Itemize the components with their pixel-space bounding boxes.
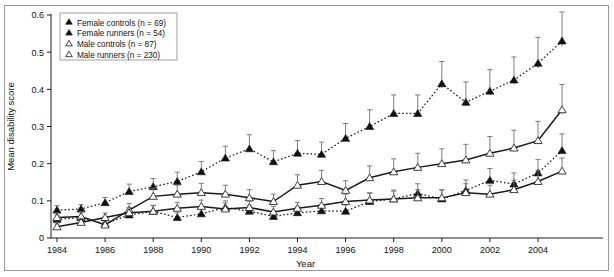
- x-tick-label: 1992: [239, 245, 259, 255]
- series-line: [57, 171, 562, 227]
- series-line: [57, 110, 562, 225]
- data-point-marker: [558, 106, 566, 113]
- data-point-marker: [173, 178, 181, 185]
- x-tick-label: 1990: [191, 245, 211, 255]
- data-point-marker: [486, 176, 494, 183]
- data-point-marker: [342, 134, 350, 141]
- y-tick-label: 0.1: [31, 196, 44, 206]
- y-tick-label: 0.4: [31, 85, 44, 95]
- data-point-marker: [558, 167, 566, 174]
- data-point-marker: [510, 76, 518, 83]
- data-point-marker: [221, 154, 229, 161]
- x-tick-label: 2004: [528, 245, 548, 255]
- data-point-marker: [53, 206, 61, 213]
- x-tick-label: 1996: [336, 245, 356, 255]
- data-point-marker: [534, 59, 542, 66]
- data-point-marker: [438, 80, 446, 87]
- data-point-marker: [245, 145, 253, 152]
- series-line: [57, 41, 562, 210]
- data-point-marker: [317, 178, 325, 185]
- y-tick-label: 0.2: [31, 159, 44, 169]
- data-point-marker: [101, 199, 109, 206]
- data-point-marker: [342, 207, 350, 214]
- data-point-marker: [197, 168, 205, 175]
- x-tick-label: 1984: [47, 245, 67, 255]
- y-axis-title: Mean disability score: [5, 82, 16, 171]
- legend-label: Male controls (n = 87): [77, 40, 157, 49]
- x-tick-label: 1986: [95, 245, 115, 255]
- data-point-marker: [269, 158, 277, 165]
- x-tick-label: 1994: [287, 245, 307, 255]
- chart-figure: 00.10.20.30.40.50.6198419861988199019921…: [0, 0, 614, 277]
- data-point-marker: [486, 87, 494, 94]
- y-tick-label: 0.5: [31, 48, 44, 58]
- data-point-marker: [558, 37, 566, 44]
- legend-label: Male runners (n = 230): [77, 51, 160, 60]
- chart-svg: 00.10.20.30.40.50.6198419861988199019921…: [0, 0, 614, 277]
- y-tick-label: 0: [39, 233, 44, 243]
- x-tick-label: 2002: [480, 245, 500, 255]
- data-point-marker: [366, 123, 374, 130]
- data-point-marker: [558, 147, 566, 154]
- data-point-marker: [197, 210, 205, 217]
- legend-label: Female runners (n = 54): [77, 29, 165, 38]
- legend: Female controls (n = 69)Female runners (…: [60, 13, 177, 60]
- y-tick-label: 0.6: [31, 10, 44, 20]
- plot-area: 00.10.20.30.40.50.6198419861988199019921…: [0, 0, 614, 277]
- legend-label: Female controls (n = 69): [77, 19, 166, 28]
- x-tick-label: 2000: [432, 245, 452, 255]
- y-tick-label: 0.3: [31, 122, 44, 132]
- x-tick-label: 1998: [384, 245, 404, 255]
- data-point-marker: [125, 188, 133, 195]
- x-axis-title: Year: [296, 258, 315, 269]
- x-tick-label: 1988: [143, 245, 163, 255]
- data-point-marker: [390, 110, 398, 117]
